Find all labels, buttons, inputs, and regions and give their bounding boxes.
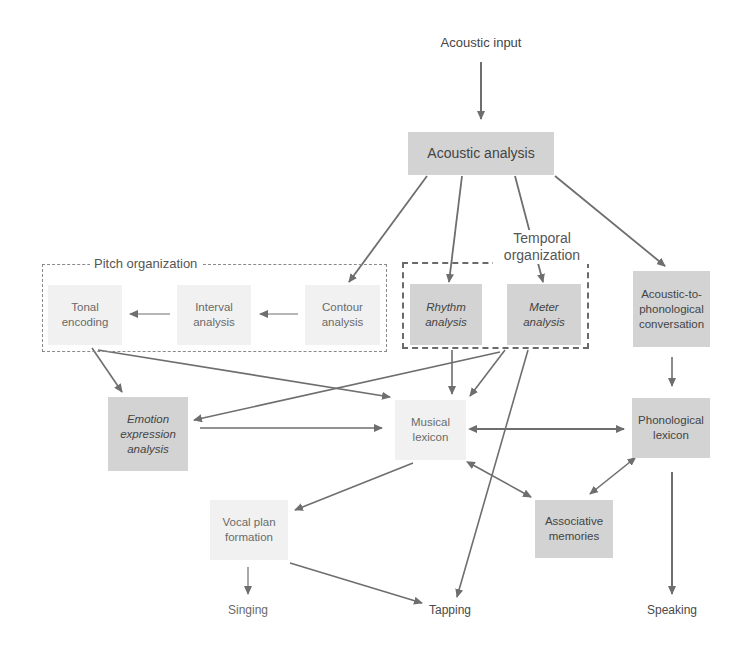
group-temporal-organization-label: Temporal organization — [493, 230, 591, 264]
node-phonological-lexicon: Phonological lexicon — [632, 398, 710, 458]
node-meter-analysis: Meter analysis — [507, 284, 581, 345]
node-associative-memories: Associative memories — [535, 500, 613, 558]
node-acoustic-to-phonological: Acoustic-to-phonological conversation — [633, 271, 710, 347]
music-processing-diagram: Acoustic input Acoustic analysis Pitch o… — [0, 0, 735, 646]
output-tapping: Tapping — [420, 603, 480, 617]
node-tonal-encoding: Tonal encoding — [48, 285, 122, 345]
node-rhythm-analysis: Rhythm analysis — [410, 284, 482, 345]
node-emotion-expression: Emotion expression analysis — [108, 397, 188, 471]
output-singing: Singing — [218, 603, 278, 617]
node-acoustic-analysis: Acoustic analysis — [408, 132, 554, 175]
node-interval-analysis: Interval analysis — [177, 285, 251, 345]
group-pitch-organization-label: Pitch organization — [90, 256, 201, 272]
node-vocal-plan-formation: Vocal plan formation — [210, 500, 288, 560]
acoustic-input-label: Acoustic input — [421, 35, 541, 50]
node-contour-analysis: Contour analysis — [305, 285, 380, 345]
output-speaking: Speaking — [640, 603, 704, 617]
node-musical-lexicon: Musical lexicon — [395, 400, 466, 460]
